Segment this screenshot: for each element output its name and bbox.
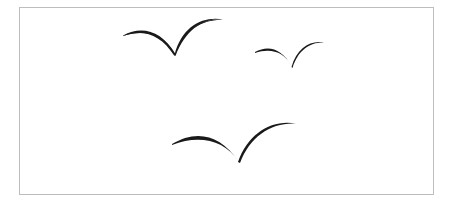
bird-icon (123, 19, 223, 56)
bird-icon (172, 123, 296, 163)
birds-illustration (0, 0, 452, 205)
bird-icon (255, 42, 324, 68)
